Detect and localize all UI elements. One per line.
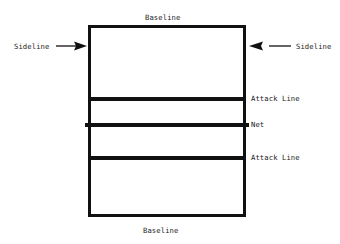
attack-line-top-label: Attack Line: [251, 94, 300, 103]
net-line: [85, 123, 249, 127]
sideline-right-label: Sideline: [296, 42, 331, 51]
attack-line-bottom: [88, 156, 246, 160]
court-outline: [88, 25, 246, 217]
sideline-left-label: Sideline: [14, 42, 49, 51]
baseline-bottom-label: Baseline: [143, 226, 178, 235]
volleyball-court-diagram: Baseline Sideline Sideline Attack Line N…: [0, 0, 340, 244]
sideline-arrow-right-icon: [249, 41, 291, 50]
net-label: Net: [251, 120, 264, 129]
sideline-arrow-left-icon: [56, 41, 88, 50]
attack-line-top: [88, 97, 246, 101]
attack-line-bottom-label: Attack Line: [251, 153, 300, 162]
baseline-top-label: Baseline: [145, 13, 180, 22]
